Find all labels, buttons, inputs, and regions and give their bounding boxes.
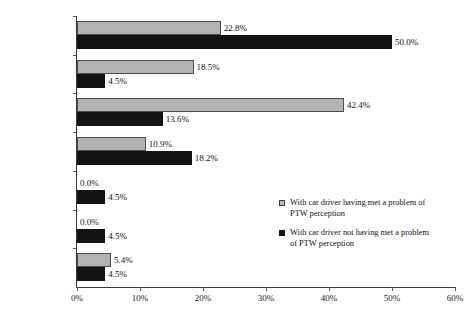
chart-row: Decision10.9%18.2% (77, 132, 455, 171)
bar-value-label: 4.5% (108, 190, 127, 204)
bar-value-label: 50.0% (395, 35, 418, 49)
x-axis-tick-label: 0% (71, 293, 83, 303)
y-axis-line (76, 16, 77, 287)
bar-value-label: 18.5% (197, 60, 220, 74)
x-axis-tick (266, 287, 267, 291)
bar-series-b (77, 190, 105, 204)
bar-value-label: 13.6% (166, 112, 189, 126)
bar-value-label: 4.5% (108, 229, 127, 243)
bar-series-a (77, 137, 146, 151)
x-axis-tick (203, 287, 204, 291)
bar-value-label: 10.9% (149, 137, 172, 151)
x-axis-tick (140, 287, 141, 291)
bar-value-label: 18.2% (195, 151, 218, 165)
legend-label-series-a-line1: With car driver having met a problem of (290, 198, 469, 209)
bar-series-b (77, 35, 392, 49)
bar-series-a (77, 60, 194, 74)
legend-label-series-a-line2: PTW perception (290, 209, 469, 220)
bar-value-label: 0.0% (80, 176, 99, 190)
bar-series-b (77, 267, 105, 281)
bar-value-label: 4.5% (108, 267, 127, 281)
chart-row: Prognosis42.4%13.6% (77, 93, 455, 132)
bar-series-b (77, 229, 105, 243)
x-axis-tick (329, 287, 330, 291)
x-axis-tick-label: 10% (132, 293, 149, 303)
bar-series-b (77, 74, 105, 88)
x-axis-tick-label: 20% (195, 293, 212, 303)
bar-series-b (77, 112, 163, 126)
chart-row: Diagnosis18.5%4.5% (77, 55, 455, 94)
bar-value-label: 0.0% (80, 215, 99, 229)
bar-series-b (77, 151, 192, 165)
bar-value-label: 42.4% (347, 98, 370, 112)
bar-value-label: 5.4% (114, 253, 133, 267)
bar-value-label: 4.5% (108, 74, 127, 88)
bar-series-a (77, 98, 344, 112)
x-axis-tick-label: 50% (384, 293, 401, 303)
legend-label-series-b-line1: With car driver not having met a problem (290, 228, 469, 239)
x-axis-tick-label: 60% (447, 293, 464, 303)
chart-row: Detection22.8%50.0% (77, 16, 455, 55)
legend-entry-series-a: With car driver having met a problem of … (279, 198, 469, 219)
bar-series-a (77, 21, 221, 35)
chart-legend: With car driver having met a problem of … (279, 198, 469, 258)
bar-chart: Detection22.8%50.0%Diagnosis18.5%4.5%Pro… (0, 0, 473, 320)
bar-series-a (77, 253, 111, 267)
x-axis-tick (392, 287, 393, 291)
legend-swatch-icon-series-b (279, 230, 285, 236)
legend-entry-series-b: With car driver not having met a problem… (279, 228, 469, 249)
x-axis-tick-label: 30% (258, 293, 275, 303)
bar-value-label: 22.8% (224, 21, 247, 35)
legend-swatch-icon-series-a (279, 200, 285, 206)
x-axis-tick (455, 287, 456, 291)
legend-label-series-b-line2: of PTW perception (290, 239, 469, 250)
x-axis-tick-label: 40% (321, 293, 338, 303)
x-axis-tick (77, 287, 78, 291)
